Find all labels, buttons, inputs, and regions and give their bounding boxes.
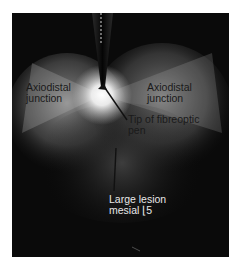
- label-line: pen: [128, 125, 199, 136]
- label-axiodistal-junction-right: Axiodistal junction: [147, 82, 192, 104]
- transillumination-photo: Axiodistal junction Axiodistal junction …: [12, 13, 229, 257]
- label-large-lesion: Large lesion mesial ⌊5: [109, 194, 166, 216]
- label-axiodistal-junction-left: Axiodistal junction: [26, 82, 71, 104]
- label-line: junction: [147, 93, 192, 104]
- label-line: mesial ⌊5: [109, 205, 166, 216]
- label-pen-tip: Tip of fibreoptic pen: [128, 114, 199, 136]
- label-line: junction: [26, 93, 71, 104]
